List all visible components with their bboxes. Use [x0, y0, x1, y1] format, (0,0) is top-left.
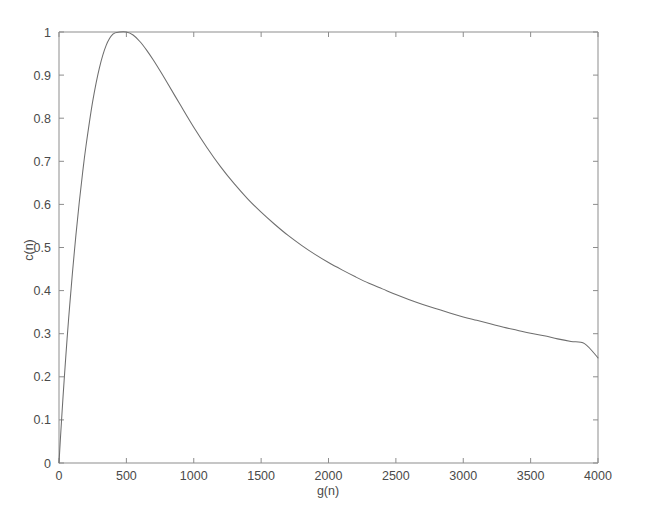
- y-tick-label: 1: [44, 26, 51, 40]
- y-tick-label: 0.1: [34, 413, 51, 427]
- y-tick-label: 0.9: [34, 69, 51, 83]
- y-tick-label: 0.3: [34, 327, 51, 341]
- x-axis-title: g(n): [317, 484, 339, 498]
- y-tick-label: 0.4: [34, 284, 51, 298]
- x-tick-label: 3500: [517, 469, 545, 483]
- x-tick-label: 1500: [247, 469, 275, 483]
- data-series-line: [59, 32, 598, 463]
- y-tick-label: 0.6: [34, 198, 51, 212]
- y-axis-title: c(n): [22, 239, 36, 261]
- x-tick-label: 0: [56, 469, 63, 483]
- x-tick-label: 2500: [382, 469, 410, 483]
- x-tick-label: 3000: [449, 469, 477, 483]
- y-tick-label: 0.5: [34, 241, 51, 255]
- x-tick-label: 500: [116, 469, 137, 483]
- line-chart: 05001000150020002500300035004000 00.10.2…: [0, 0, 645, 521]
- x-tick-label: 1000: [180, 469, 208, 483]
- y-tick-label: 0.8: [34, 112, 51, 126]
- y-axis-tick-labels: 00.10.20.30.40.50.60.70.80.91: [34, 26, 51, 471]
- figure-canvas: 05001000150020002500300035004000 00.10.2…: [0, 0, 645, 521]
- x-axis-tick-labels: 05001000150020002500300035004000: [56, 469, 612, 483]
- y-tick-label: 0.7: [34, 155, 51, 169]
- y-axis-ticks: [59, 32, 598, 463]
- x-tick-label: 2000: [315, 469, 343, 483]
- y-tick-label: 0.2: [34, 370, 51, 384]
- x-tick-label: 4000: [584, 469, 612, 483]
- x-axis-ticks: [59, 32, 598, 463]
- axes-frame: [59, 32, 598, 463]
- y-tick-label: 0: [44, 457, 51, 471]
